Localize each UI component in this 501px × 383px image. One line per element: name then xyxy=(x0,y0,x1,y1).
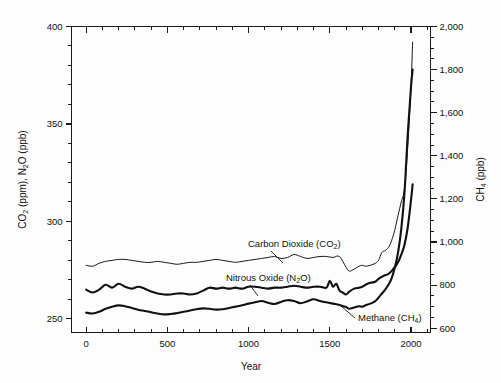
axis-title-y-right: CH4 (ppb) xyxy=(475,157,487,201)
ytick-label-right: 1,200 xyxy=(440,193,464,204)
ytick-label-right: 600 xyxy=(440,323,456,334)
greenhouse-gas-concentration-chart: 05001000150020002503003504006008001,0001… xyxy=(0,0,501,383)
series-curve xyxy=(86,42,413,271)
ytick-label-right: 1,000 xyxy=(440,236,464,247)
ytick-label-right: 1,400 xyxy=(440,150,464,161)
ytick-label-left: 250 xyxy=(47,313,63,324)
xtick-label: 1500 xyxy=(319,338,340,349)
ytick-label-left: 400 xyxy=(47,21,63,32)
label-methane: Methane (CH4) xyxy=(358,312,422,324)
ytick-label-right: 1,800 xyxy=(440,64,464,75)
axis-title-x: Year xyxy=(241,361,262,372)
label-nitrous-oxide: Nitrous Oxide (N2O) xyxy=(226,272,311,284)
xtick-label: 1000 xyxy=(238,338,259,349)
ytick-label-right: 1,600 xyxy=(440,107,464,118)
ytick-label-left: 350 xyxy=(47,118,63,129)
xtick-label: 2000 xyxy=(400,338,421,349)
xtick-label: 500 xyxy=(159,338,175,349)
ytick-label-left: 300 xyxy=(47,216,63,227)
ytick-label-right: 800 xyxy=(440,279,456,290)
chart-canvas: 05001000150020002503003504006008001,0001… xyxy=(0,0,501,383)
xtick-label: 0 xyxy=(83,338,88,349)
axis-title-y-left: CO2 (ppm), N2O (ppb) xyxy=(17,130,29,228)
label-carbon-dioxide: Carbon Dioxide (CO2) xyxy=(248,238,341,250)
ytick-label-right: 2,000 xyxy=(440,21,464,32)
